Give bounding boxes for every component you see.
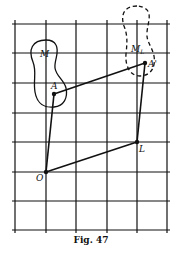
figure-47: M ML A A' L O Fig. 47: [0, 0, 182, 261]
point-a-prime: [143, 61, 147, 65]
label-a: A: [50, 81, 58, 91]
label-m: M: [39, 49, 50, 59]
figure-caption: Fig. 47: [0, 235, 182, 245]
label-l: L: [138, 144, 145, 154]
grid: [12, 20, 170, 233]
label-ml: ML: [130, 44, 144, 55]
segment-l-o: [46, 142, 137, 172]
point-o: [44, 170, 48, 174]
segment-o-a: [46, 94, 54, 172]
point-a: [52, 92, 56, 96]
segment-aprime-l: [137, 63, 145, 142]
diagram-canvas: M ML A A' L O: [0, 0, 182, 261]
label-a-prime: A': [147, 59, 157, 69]
label-o: O: [36, 173, 44, 183]
segment-a-aprime: [54, 63, 145, 94]
